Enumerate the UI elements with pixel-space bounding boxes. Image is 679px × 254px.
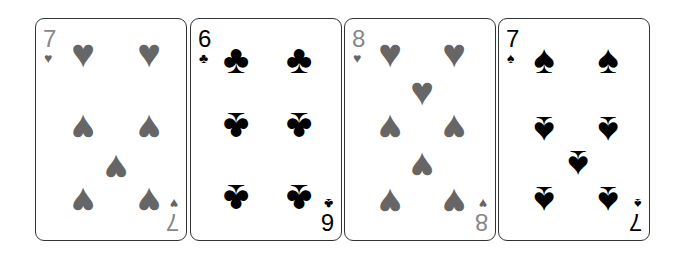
heart-icon: ♥ <box>434 109 474 149</box>
heart-icon: ♥ <box>63 33 103 73</box>
heart-icon: ♥ <box>129 182 169 222</box>
spade-icon: ♠ <box>524 181 564 221</box>
heart-icon: ♥ <box>370 33 410 73</box>
heart-icon: ♥ <box>129 33 169 73</box>
club-icon: ♣ <box>199 51 208 65</box>
heart-icon: ♥ <box>370 183 410 223</box>
spade-icon: ♠ <box>588 181 628 221</box>
card-rank: 7 <box>166 210 179 234</box>
card-7-hearts[interactable]: 7 ♥ ♥ ♥ ♥ ♥ ♥ ♥ ♥ ♥ 7 <box>35 18 187 241</box>
card-6-clubs[interactable]: 6 ♣ ♣ ♣ ♣ ♣ ♣ ♣ ♣ 6 <box>190 18 342 241</box>
heart-icon: ♥ <box>402 71 442 111</box>
card-rank: 7 <box>506 27 519 51</box>
heart-icon: ♥ <box>353 51 361 65</box>
club-icon: ♣ <box>216 107 256 147</box>
card-rank: 7 <box>43 27 56 51</box>
spade-icon: ♠ <box>507 51 514 65</box>
club-icon: ♣ <box>279 107 319 147</box>
spade-icon: ♠ <box>588 39 628 79</box>
heart-icon: ♥ <box>434 183 474 223</box>
club-icon: ♣ <box>216 179 256 219</box>
card-rank: 8 <box>475 210 488 234</box>
heart-icon: ♥ <box>63 109 103 149</box>
card-rank: 7 <box>629 210 642 234</box>
club-icon: ♣ <box>279 39 319 79</box>
card-rank: 6 <box>321 210 334 234</box>
card-8-hearts[interactable]: 8 ♥ ♥ ♥ ♥ ♥ ♥ ♥ ♥ ♥ ♥ 8 <box>344 18 496 241</box>
heart-icon: ♥ <box>402 147 442 187</box>
heart-icon: ♥ <box>434 33 474 73</box>
heart-icon: ♥ <box>44 51 52 65</box>
club-icon: ♣ <box>216 39 256 79</box>
spade-icon: ♠ <box>558 145 598 185</box>
heart-icon: ♥ <box>63 182 103 222</box>
spade-icon: ♠ <box>524 39 564 79</box>
club-icon: ♣ <box>279 179 319 219</box>
heart-icon: ♥ <box>129 109 169 149</box>
heart-icon: ♥ <box>370 109 410 149</box>
card-rank: 8 <box>352 27 365 51</box>
card-7-spades[interactable]: 7 ♠ ♠ ♠ ♠ ♠ ♠ ♠ ♠ ♠ 7 <box>498 18 650 241</box>
card-rank: 6 <box>198 27 211 51</box>
